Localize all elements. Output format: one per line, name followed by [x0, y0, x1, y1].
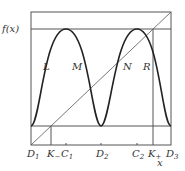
function-curve: [31, 29, 171, 126]
label-l: L: [42, 61, 50, 72]
diagram-canvas: f(x) L M N R D1 K− C1 D2 C2 K+ D3 x: [0, 0, 185, 171]
tick-label-k-minus: K−: [46, 148, 60, 161]
diagonal-line: [31, 12, 171, 145]
label-m: M: [71, 61, 83, 72]
tick-label-d2: D2: [95, 148, 109, 161]
x-axis-label: x: [157, 157, 163, 168]
tick-label-d1: D1: [26, 148, 40, 161]
label-n: N: [122, 61, 133, 72]
label-r: R: [142, 61, 151, 72]
tick-label-c2: C2: [132, 148, 145, 161]
y-axis-label: f(x): [1, 23, 19, 34]
tick-label-c1: C1: [61, 148, 73, 161]
tick-label-d3: D3: [165, 148, 179, 161]
